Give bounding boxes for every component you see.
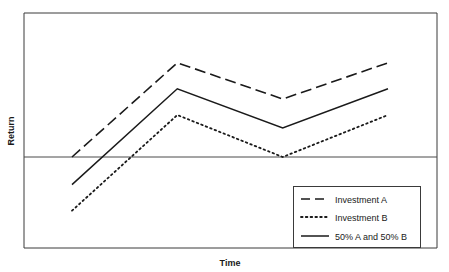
chart-container: Return Time Investment A Investment B 50… [0,0,449,272]
legend-label-investment-a: Investment A [335,195,387,205]
legend-label-blend-50-50: 50% A and 50% B [335,232,407,242]
legend-label-investment-b: Investment B [335,213,388,223]
series-blend-50-50 [72,89,388,185]
y-axis-label: Return [6,117,16,146]
series-investment-a [72,63,388,157]
x-axis-label: Time [220,258,241,268]
legend: Investment A Investment B 50% A and 50% … [294,187,421,248]
investment-return-line-chart: Return Time Investment A Investment B 50… [0,0,449,272]
